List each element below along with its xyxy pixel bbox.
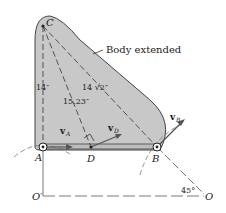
- label-vd: v: [107, 123, 114, 133]
- label-va: v: [59, 126, 66, 136]
- diagram-canvas: Body extended C A B D O′ O 14″ 14 √2″ 15…: [0, 0, 226, 213]
- rigid-body-kinematics-diagram: Body extended C A B D O′ O 14″ 14 √2″ 15…: [0, 0, 226, 213]
- dim-cd: 15.23″: [63, 97, 89, 106]
- point-c: [41, 24, 44, 27]
- pin-b-center: [156, 146, 159, 149]
- label-d: D: [86, 153, 95, 164]
- label-b: B: [151, 153, 159, 164]
- label-o: O: [205, 191, 213, 202]
- label-vd-sub: D: [113, 127, 119, 134]
- label-a: A: [34, 152, 42, 163]
- label-vb: v: [169, 112, 176, 122]
- body-extended-label: Body extended: [106, 44, 182, 55]
- dim-ca: 14″: [36, 83, 49, 92]
- pin-a-center: [42, 146, 45, 149]
- angle-label: 45°: [181, 186, 195, 195]
- point-d: [89, 145, 92, 148]
- label-o-prime: O′: [32, 191, 43, 202]
- label-vb-sub: B: [175, 116, 181, 123]
- label-va-sub: A: [65, 130, 71, 137]
- dim-cb: 14 √2″: [82, 83, 108, 92]
- label-c: C: [46, 17, 54, 28]
